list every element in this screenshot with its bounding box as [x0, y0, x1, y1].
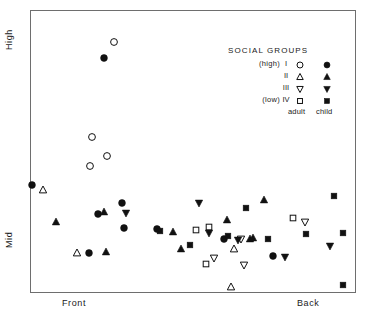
data-point — [301, 219, 308, 226]
data-point — [122, 210, 129, 217]
data-point — [101, 55, 108, 62]
legend-row-group-label: III — [280, 83, 292, 92]
legend-row: (high)I — [228, 59, 348, 70]
legend: SOCIAL GROUPS (high)IIIIII(low)IV adult … — [228, 46, 348, 118]
data-point — [102, 248, 109, 255]
legend-row: (low)IV — [228, 95, 348, 106]
data-point — [29, 182, 36, 189]
data-point — [177, 245, 184, 252]
x-axis-label-front: Front — [62, 298, 86, 308]
legend-row-side-label: (high) — [259, 59, 280, 68]
data-point — [331, 193, 337, 199]
legend-row: II — [228, 71, 348, 82]
legend-marker-child-filled-circle-icon — [321, 60, 333, 70]
legend-marker-adult-open-square-icon — [294, 96, 306, 106]
data-point — [203, 261, 209, 267]
data-point — [119, 200, 126, 207]
data-point — [86, 250, 93, 257]
data-point — [52, 218, 59, 225]
data-point — [89, 134, 96, 141]
x-axis-label-back: Back — [297, 298, 319, 308]
data-point — [303, 231, 309, 237]
data-point — [100, 208, 107, 215]
y-axis-label-high: High — [4, 29, 14, 50]
y-axis-label-mid: Mid — [4, 232, 14, 248]
data-point — [205, 230, 212, 237]
data-point — [260, 196, 267, 203]
data-point — [121, 225, 128, 232]
data-point — [230, 245, 237, 252]
data-point — [340, 230, 346, 236]
legend-marker-adult-open-triangle-down-icon — [294, 84, 306, 94]
legend-row-group-label: IV — [280, 95, 292, 104]
legend-marker-child-filled-triangle-down-icon — [321, 84, 333, 94]
data-point — [187, 242, 193, 248]
data-point — [265, 236, 271, 242]
data-point — [281, 254, 288, 261]
data-point — [157, 228, 163, 234]
legend-marker-child-filled-triangle-up-icon — [321, 72, 333, 82]
data-point — [193, 227, 199, 233]
data-point — [195, 200, 202, 207]
data-point — [169, 228, 176, 235]
data-point — [326, 243, 333, 250]
legend-row-group-label: I — [280, 59, 292, 68]
legend-row-side-label: (low) — [262, 95, 280, 104]
data-point — [223, 216, 230, 223]
legend-marker-child-filled-square-icon — [321, 96, 333, 106]
data-point — [111, 39, 118, 46]
data-point — [340, 282, 346, 288]
data-point — [104, 153, 111, 160]
data-point — [240, 262, 247, 269]
data-point — [95, 211, 102, 218]
chart-page: High Mid Front Back SOCIAL GROUPS (high)… — [0, 0, 373, 319]
data-point — [243, 205, 249, 211]
legend-row: III — [228, 83, 348, 94]
legend-marker-adult-open-triangle-up-icon — [294, 72, 306, 82]
data-point — [227, 283, 234, 290]
legend-title: SOCIAL GROUPS — [228, 46, 308, 55]
data-point — [290, 215, 296, 221]
data-point — [210, 255, 217, 262]
data-point — [39, 186, 46, 193]
legend-column-label-adult: adult — [288, 107, 305, 116]
data-point — [225, 233, 231, 239]
data-point — [87, 163, 94, 170]
legend-column-label-child: child — [316, 107, 332, 116]
data-point — [206, 224, 212, 230]
legend-row-group-label: II — [280, 71, 292, 80]
legend-marker-adult-open-circle-icon — [294, 60, 306, 70]
data-point — [270, 253, 277, 260]
data-point — [73, 249, 80, 256]
